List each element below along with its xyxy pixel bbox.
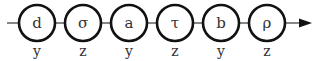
node-1: d y [19,5,55,59]
node-2: σ z [65,5,101,59]
diagram-canvas: d y σ z a y τ z b y ρ z [0,0,318,61]
node-symbol: a [125,14,134,32]
node-symbol: ρ [263,14,272,32]
node-symbol: σ [78,14,88,32]
node-label: z [79,43,86,59]
node-symbol: d [32,14,42,32]
node-label: y [124,43,133,59]
node-symbol: τ [171,14,179,32]
node-4: τ z [157,5,193,59]
node-3: a y [111,5,147,59]
arrowhead-icon [299,19,312,28]
node-label: z [171,43,178,59]
node-6: ρ z [249,5,285,59]
node-5: b y [203,5,239,59]
node-symbol: b [216,14,226,32]
node-label: y [32,43,41,59]
node-label: z [263,43,270,59]
sequence-diagram: d y σ z a y τ z b y ρ z [0,0,318,61]
node-label: y [216,43,225,59]
